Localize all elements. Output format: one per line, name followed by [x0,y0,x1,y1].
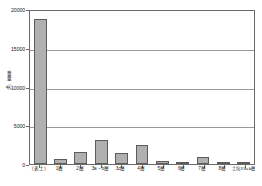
bar-1-sou [54,159,67,164]
bar-slot-4 [111,11,131,164]
bar-slot-6 [152,11,172,164]
bar-slot-5 [132,11,152,164]
bar-slot-3 [91,11,111,164]
x-tick-label-0: （表土） [29,166,49,184]
x-tick-label-8: 7層 [192,166,212,184]
bar-8-sou [217,162,230,164]
bar-5-sou [156,161,169,164]
bar-chart-figure: 20000 15000 10000 5000 0 重量（g） [0,0,262,186]
bar-6-sou [176,162,189,164]
x-tick-label-3: 3a・b層 [90,166,110,184]
bar-series [30,11,254,164]
x-tick-label-1: 1層 [49,166,69,184]
x-tick-label-7: 6層 [171,166,191,184]
bar-slot-1 [50,11,70,164]
y-tick-label-5000: 5000 [14,123,25,129]
x-axis-labels: （表土） 1層 2層 3a・b層 3c層 4層 5層 6層 7層 8層 土坑3 … [29,166,255,184]
bar-3ab-sou [95,140,108,164]
y-tick-label-20000: 20000 [11,7,25,13]
bar-slot-2 [71,11,91,164]
bar-slot-8 [193,11,213,164]
x-tick-label-5: 4層 [131,166,151,184]
plot-area [29,10,255,165]
x-tick-label-6: 5層 [151,166,171,184]
x-tick-label-2: 2層 [70,166,90,184]
x-tick-label-10: 土坑3 9a-b層 [232,166,255,184]
y-tick-label-15000: 15000 [11,46,25,52]
bar-4-sou [136,145,149,164]
y-axis-title: 重量（g） [0,71,11,94]
bar-3c-sou [115,153,128,164]
bar-slot-10 [234,11,254,164]
bar-slot-7 [173,11,193,164]
bar-2-sou [74,152,87,164]
bar-slot-9 [213,11,233,164]
y-tick-label-0: 0 [22,162,25,168]
bar-slot-0 [30,11,50,164]
y-tick-label-10000: 10000 [11,85,25,91]
bar-dokou3-9ab-sou [237,162,250,164]
x-tick-label-4: 3c層 [110,166,130,184]
x-tick-label-9: 8層 [212,166,232,184]
bar-7-sou [197,157,210,164]
bar-hyoudo [34,19,47,164]
